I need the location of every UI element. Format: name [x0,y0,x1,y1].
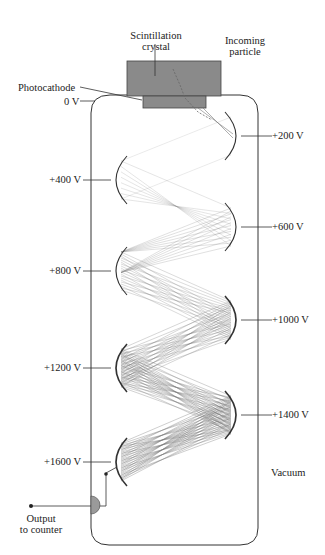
photoelectron-path [198,108,233,134]
vacuum-label: Vacuum [271,467,305,478]
electron-path [121,309,231,363]
electron-path [121,315,231,366]
electron-path [121,313,231,355]
electron-path [121,336,231,357]
dynode-voltage-label: +1000 V [272,314,309,325]
electron-path [121,331,231,364]
electron-path [121,425,231,449]
electron-path [121,214,231,252]
electron-path [121,307,231,352]
electron-path [121,226,231,252]
electron-path [121,403,231,454]
dynode-voltage-label: +200 V [272,130,304,141]
output-contact [91,496,100,514]
output-terminal[interactable] [29,504,33,508]
dynode-2 [116,156,127,204]
dynode-voltage-label: +400 V [49,174,81,185]
electron-path [121,288,231,313]
dynode-voltage-label: +1400 V [272,409,309,420]
electron-path [121,325,231,361]
electron-path [121,409,231,458]
electron-path [121,264,231,305]
electron-path [121,349,231,396]
dynode-1 [225,112,236,160]
incoming-particle-label: Incoming particle [210,35,280,57]
electron-path [121,407,231,444]
cathode-voltage-label: 0 V [64,96,79,107]
scintillation-crystal [127,61,221,96]
electron-path [121,383,231,401]
crystal-label: Scintillation crystal [112,30,200,52]
dynode-voltage-label: +1200 V [44,362,81,373]
electron-path [121,284,231,325]
electron-path [121,276,231,309]
electron-path [121,231,231,252]
output-label: Output to counter [10,513,72,535]
electron-path [121,408,231,451]
photocathode-label: Photocathode [18,82,75,93]
dynode-voltage-label: +800 V [49,265,81,276]
dynode-voltage-label: +600 V [272,221,304,232]
tube-outline [91,95,258,545]
photocathode [143,96,206,108]
electron-path [121,155,231,199]
dynode-3 [225,203,236,251]
dynode-group [83,112,272,486]
anode-lead [106,467,117,473]
dynode-voltage-label: +1600 V [44,456,81,467]
electron-path [121,240,231,272]
electron-path [121,432,231,461]
electron-path [121,117,231,161]
photoelectron-path [203,108,233,138]
electron-cascade [121,117,231,481]
electron-path [121,282,231,311]
electron-path [121,220,231,252]
dynode-6 [116,344,127,392]
